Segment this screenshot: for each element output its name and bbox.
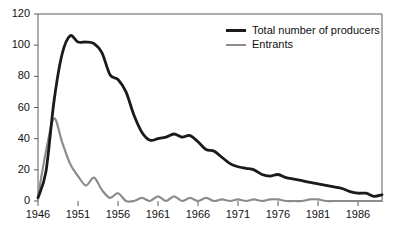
- y-axis-tick-label: 100: [0, 39, 30, 50]
- legend-swatch-producers: [226, 29, 246, 32]
- x-axis-tick-label: 1986: [333, 209, 383, 220]
- legend-item-entrants: Entrants: [226, 38, 398, 51]
- line-chart: 020406080100120 194619511956196119661971…: [0, 0, 403, 231]
- y-axis-tick-label: 20: [0, 164, 30, 175]
- y-axis-tick-label: 0: [0, 195, 30, 206]
- legend-label-producers: Total number of producers: [252, 25, 380, 36]
- y-axis-tick-marks: [34, 14, 38, 201]
- series-group: [38, 35, 382, 201]
- chart-legend: Total number of producers Entrants: [226, 24, 398, 52]
- legend-swatch-entrants: [226, 44, 246, 46]
- y-axis-tick-label: 120: [0, 8, 30, 19]
- y-axis-tick-label: 40: [0, 133, 30, 144]
- series-line-producers: [38, 35, 382, 197]
- legend-item-producers: Total number of producers: [226, 24, 398, 37]
- legend-label-entrants: Entrants: [252, 39, 293, 50]
- y-axis-tick-label: 80: [0, 70, 30, 81]
- y-axis-tick-label: 60: [0, 102, 30, 113]
- series-line-entrants: [38, 118, 382, 201]
